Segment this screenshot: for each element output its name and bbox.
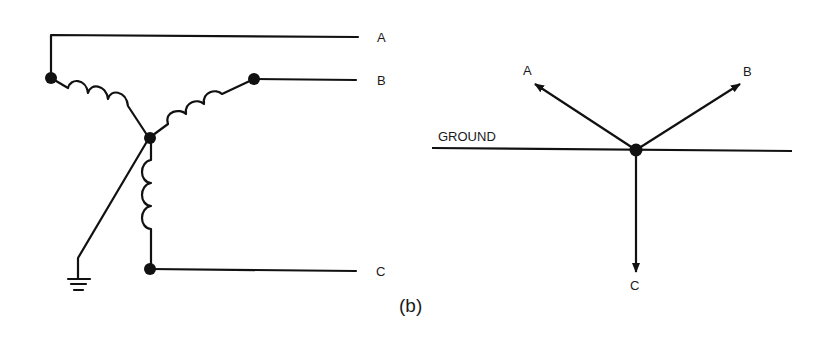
phasor-b-arrow [636, 84, 740, 150]
phasor-c-label: C [630, 278, 639, 293]
junction-dots [45, 72, 260, 275]
phasor-a-label: A [523, 63, 532, 78]
coil-a [51, 78, 149, 138]
neutral-node-dot [144, 132, 156, 144]
wye-schematic [51, 35, 358, 290]
ground-label: GROUND [438, 129, 496, 144]
line-a [51, 35, 358, 78]
coil-b [149, 79, 254, 138]
terminal-c-label: C [376, 264, 385, 279]
node-a-dot [45, 72, 57, 84]
terminal-b-label: B [377, 73, 386, 88]
phasor-a-arrow [535, 84, 636, 150]
phasor-origin-dot [630, 144, 643, 157]
coil-c [142, 138, 151, 269]
ground-icon [68, 279, 90, 290]
ground-lead [78, 138, 149, 278]
node-c-dot [144, 263, 156, 275]
node-b-dot [248, 73, 260, 85]
phasor-b-label: B [743, 64, 752, 79]
line-b [254, 79, 356, 80]
line-c [150, 269, 356, 271]
diagram-canvas: A B C GROUND A B C (b) [0, 0, 830, 349]
phasor-diagram [432, 84, 792, 272]
terminal-a-label: A [377, 30, 386, 45]
ground-reference-line [432, 148, 792, 151]
figure-label: (b) [399, 295, 422, 316]
